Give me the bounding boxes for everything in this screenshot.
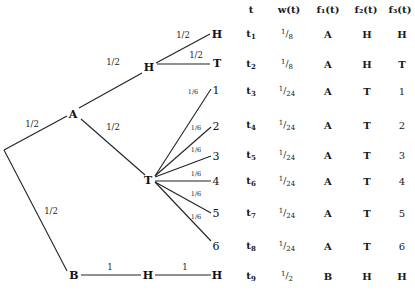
leaf-die-3: 3 <box>213 150 220 163</box>
row-f3: T <box>398 59 405 70</box>
row-f3: 4 <box>399 176 405 187</box>
prob-A-H: 1/2 <box>106 57 120 67</box>
row-t: t2 <box>246 58 256 71</box>
prob-T-4: 1/6 <box>191 170 201 178</box>
tree-edges <box>4 34 211 275</box>
row-t: t9 <box>246 270 256 283</box>
row-weight: 1/24 <box>279 240 295 253</box>
row-t: t7 <box>246 207 256 220</box>
row-weight: 1/8 <box>281 58 293 71</box>
header-w: w(t) <box>278 4 301 15</box>
prob-T-2: 1/6 <box>191 124 201 132</box>
header-f1: f₁(t) <box>317 4 340 15</box>
row-f1: A <box>324 150 332 161</box>
header-f3: f₃(t) <box>389 4 412 15</box>
prob-root-B: 1/2 <box>44 206 58 216</box>
prob-T-1: 1/6 <box>188 88 198 96</box>
node-A: A <box>68 108 78 121</box>
node-B: B <box>69 269 78 282</box>
row-f1: B <box>324 271 332 282</box>
row-t: t1 <box>246 28 256 41</box>
row-t: t4 <box>246 119 256 132</box>
node-H-mid: H <box>144 61 154 74</box>
outcome-table: t w(t) f₁(t) f₂(t) f₃(t) t11/8AHHt21/8AH… <box>240 0 415 295</box>
row-f3: 2 <box>399 120 405 131</box>
row-t: t8 <box>246 240 256 253</box>
row-f1: A <box>324 120 332 131</box>
row-t: t5 <box>246 149 256 162</box>
edge-T-5 <box>155 182 211 213</box>
node-H-bottom-mid: H <box>143 269 153 282</box>
row-f3: 3 <box>399 150 405 161</box>
row-weight: 1/24 <box>279 149 295 162</box>
row-f1: A <box>324 208 332 219</box>
prob-H-H-bottom: 1 <box>182 262 187 272</box>
edge-T-3 <box>155 156 211 177</box>
prob-T-6: 1/6 <box>191 213 201 221</box>
prob-T-5: 1/6 <box>191 190 201 198</box>
row-f1: A <box>324 86 332 97</box>
row-f1: A <box>324 29 332 40</box>
prob-T-3: 1/6 <box>191 146 201 154</box>
leaf-die-4: 4 <box>213 175 220 188</box>
edge-T-2 <box>155 127 211 176</box>
row-f2: H <box>362 59 371 70</box>
row-f1: A <box>324 176 332 187</box>
leaf-die-5: 5 <box>213 207 220 220</box>
row-f3: 6 <box>399 241 405 252</box>
row-f2: H <box>362 29 371 40</box>
row-f3: H <box>397 29 406 40</box>
probability-tree: A H T B H H H T 1 2 3 4 5 6 1/2 1/2 1/2 … <box>0 0 240 295</box>
row-t: t3 <box>246 85 256 98</box>
row-f2: T <box>363 208 370 219</box>
leaf-die-1: 1 <box>213 84 220 97</box>
row-weight: 1/24 <box>279 119 295 132</box>
prob-root-A: 1/2 <box>25 119 39 129</box>
row-f3: 1 <box>399 86 405 97</box>
row-t: t6 <box>246 175 256 188</box>
row-weight: 1/8 <box>281 28 293 41</box>
header-f2: f₂(t) <box>355 4 378 15</box>
node-HT-leaf: T <box>213 57 222 70</box>
prob-H-T: 1/2 <box>189 50 203 60</box>
edge-A-H <box>79 73 142 108</box>
prob-H-H: 1/2 <box>176 30 190 40</box>
leaf-die-2: 2 <box>213 120 220 133</box>
node-H-bottom-leaf: H <box>212 269 222 282</box>
row-f2: T <box>363 241 370 252</box>
leaf-die-6: 6 <box>213 240 220 253</box>
row-weight: 1/24 <box>279 207 295 220</box>
row-f1: A <box>324 59 332 70</box>
node-HH-leaf: H <box>212 28 222 41</box>
row-f2: T <box>363 86 370 97</box>
row-weight: 1/24 <box>279 175 295 188</box>
row-f3: 5 <box>399 208 405 219</box>
edge-T-1 <box>155 89 211 176</box>
prob-A-T: 1/2 <box>106 122 120 132</box>
prob-B-H: 1 <box>107 262 112 272</box>
row-weight: 1/2 <box>281 270 293 283</box>
header-t: t <box>249 4 254 15</box>
row-weight: 1/24 <box>279 85 295 98</box>
node-T-mid: T <box>144 174 153 187</box>
row-f3: H <box>397 271 406 282</box>
row-f2: T <box>363 120 370 131</box>
row-f2: T <box>363 150 370 161</box>
edge-T-6 <box>155 182 211 241</box>
row-f2: H <box>362 271 371 282</box>
row-f1: A <box>324 241 332 252</box>
row-f2: T <box>363 176 370 187</box>
